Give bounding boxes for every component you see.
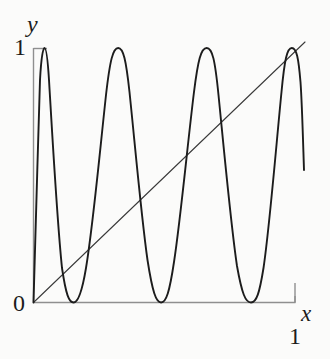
- figure-container: y x 1 0 1: [0, 0, 330, 359]
- y-axis-tick-label-min: 0: [13, 291, 25, 315]
- x-axis-tick-label-max: 1: [289, 324, 301, 348]
- x-axis-label: x: [301, 302, 311, 325]
- plot-canvas: [0, 0, 330, 359]
- y-axis-tick-label-max: 1: [14, 35, 26, 59]
- y-axis-label: y: [27, 12, 38, 36]
